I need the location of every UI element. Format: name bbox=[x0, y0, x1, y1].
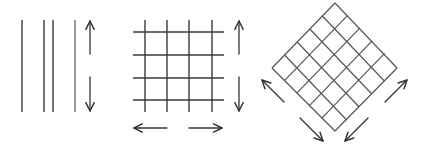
diamond-grid-line bbox=[272, 3, 335, 68]
diamond-grid-line bbox=[297, 42, 359, 107]
diamond-grid-line bbox=[322, 16, 384, 81]
panel-parallel-lines bbox=[22, 20, 90, 112]
arrow-up-right-icon bbox=[385, 80, 407, 102]
panel-diamond-grid bbox=[262, 3, 407, 141]
diamond-grid-line bbox=[285, 55, 347, 120]
diagram-canvas bbox=[0, 0, 428, 150]
panel-square-grid bbox=[133, 20, 239, 128]
arrow-up-left-icon bbox=[262, 80, 284, 102]
arrow-down-left-icon bbox=[345, 118, 368, 141]
diamond-grid-line bbox=[310, 29, 372, 94]
diamond-grid-line bbox=[322, 53, 385, 118]
diamond-grid-line bbox=[297, 28, 360, 93]
diamond-grid-line bbox=[284, 16, 347, 81]
diamond-grid-line bbox=[309, 41, 372, 106]
diamond-grid-line bbox=[335, 3, 397, 68]
arrow-down-right-icon bbox=[300, 118, 323, 141]
